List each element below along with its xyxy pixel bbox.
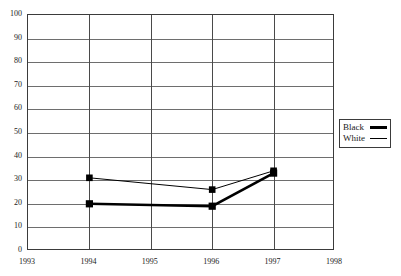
y-tick-label: 100: [0, 10, 22, 18]
series-white-marker: [86, 175, 93, 182]
legend-label: Black: [343, 122, 364, 133]
series-black: [86, 170, 277, 210]
x-tick-label: 1998: [314, 258, 354, 266]
legend-item-black: Black: [343, 122, 387, 133]
x-tick-label: 1995: [130, 258, 170, 266]
x-tick-label: 1996: [191, 258, 231, 266]
y-tick-label: 20: [0, 199, 22, 207]
x-tick-label: 1997: [253, 258, 293, 266]
y-tick-label: 90: [0, 34, 22, 42]
series-black-marker: [209, 203, 216, 210]
x-tick-label: 1993: [7, 258, 47, 266]
legend-item-white: White: [343, 133, 387, 144]
series-overlay: [28, 15, 335, 251]
chart-legend: Black White: [339, 119, 391, 148]
y-tick-label: 80: [0, 57, 22, 65]
legend-label: White: [343, 133, 365, 144]
series-black-line: [89, 173, 273, 206]
y-tick-label: 70: [0, 81, 22, 89]
series-black-marker: [270, 170, 277, 177]
line-chart: 100 90 80 70 60 50 40 30 20 10 0: [0, 0, 401, 276]
plot-area: [27, 14, 334, 250]
y-tick-label: 50: [0, 128, 22, 136]
legend-line-thick-icon: [370, 124, 387, 132]
y-tick-label: 40: [0, 152, 22, 160]
y-tick-label: 10: [0, 222, 22, 230]
series-white: [86, 168, 277, 193]
legend-line-thin-icon: [370, 135, 387, 143]
y-tick-label: 0: [0, 246, 22, 254]
x-tick-label: 1994: [68, 258, 108, 266]
series-white-marker: [209, 186, 216, 193]
y-tick-label: 60: [0, 104, 22, 112]
y-tick-label: 30: [0, 175, 22, 183]
series-black-marker: [86, 200, 93, 207]
